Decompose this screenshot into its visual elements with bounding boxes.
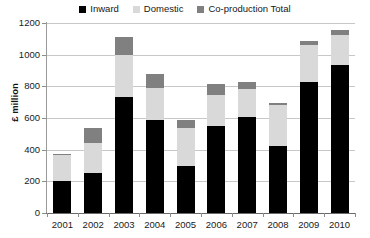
legend-swatch-icon — [79, 6, 86, 13]
y-axis-tick-label: 800 — [2, 81, 40, 91]
bar-segment[interactable] — [207, 126, 225, 213]
bar-segment[interactable] — [269, 103, 287, 105]
bar-segment[interactable] — [269, 105, 287, 146]
x-axis-tick — [263, 213, 264, 217]
x-axis-tick — [293, 213, 294, 217]
x-axis-tick — [324, 213, 325, 217]
bar-segment[interactable] — [84, 128, 102, 143]
x-axis-tick — [78, 213, 79, 217]
bar-segment[interactable] — [53, 181, 71, 213]
x-axis-tick — [201, 213, 202, 217]
y-axis-tick-label: 0 — [2, 208, 40, 218]
bar-segment[interactable] — [300, 45, 318, 82]
bar-segment[interactable] — [115, 55, 133, 97]
legend-item[interactable]: Inward — [79, 4, 119, 14]
bar-segment[interactable] — [300, 41, 318, 45]
bar-segment[interactable] — [238, 82, 256, 89]
chart-legend: InwardDomesticCo-production Total — [0, 1, 370, 17]
bar-segment[interactable] — [207, 84, 225, 95]
y-axis-tick-label: 200 — [2, 176, 40, 186]
legend-item-label: Domestic — [144, 4, 184, 14]
x-axis-tick-label: 2010 — [320, 220, 360, 230]
legend-item[interactable]: Co-production Total — [197, 4, 290, 14]
y-axis-tick-label: 1000 — [2, 50, 40, 60]
bar-segment[interactable] — [177, 120, 195, 127]
x-axis-tick — [139, 213, 140, 217]
bar-group[interactable] — [269, 103, 287, 213]
y-axis-title: £ million — [9, 68, 20, 138]
bar-group[interactable] — [177, 120, 195, 213]
bar-segment[interactable] — [146, 120, 164, 213]
x-axis-tick — [170, 213, 171, 217]
bar-segment[interactable] — [53, 155, 71, 181]
bar-segment[interactable] — [84, 173, 102, 213]
bar-group[interactable] — [238, 82, 256, 213]
plot-area — [47, 23, 355, 213]
bar-group[interactable] — [115, 37, 133, 213]
bar-segment[interactable] — [53, 154, 71, 155]
bar-group[interactable] — [84, 128, 102, 214]
legend-item-label: Inward — [90, 4, 119, 14]
bar-segment[interactable] — [177, 166, 195, 213]
bar-segment[interactable] — [331, 35, 349, 65]
legend-item[interactable]: Domestic — [133, 4, 184, 14]
bar-chart: InwardDomesticCo-production Total £ mill… — [0, 0, 370, 238]
bar-group[interactable] — [146, 74, 164, 213]
y-axis-tick-label: 600 — [2, 113, 40, 123]
bar-segment[interactable] — [115, 37, 133, 55]
y-axis-tick-label: 400 — [2, 145, 40, 155]
gridline — [47, 23, 355, 24]
bar-group[interactable] — [53, 154, 71, 213]
bar-segment[interactable] — [207, 95, 225, 126]
bar-group[interactable] — [300, 41, 318, 213]
y-axis-tick-label: 1200 — [2, 18, 40, 28]
bar-segment[interactable] — [300, 82, 318, 213]
legend-swatch-icon — [133, 6, 140, 13]
bar-group[interactable] — [331, 30, 349, 213]
legend-swatch-icon — [197, 6, 204, 13]
bar-segment[interactable] — [269, 146, 287, 213]
x-axis-tick — [47, 213, 48, 217]
bar-segment[interactable] — [146, 88, 164, 120]
bar-segment[interactable] — [177, 128, 195, 167]
x-axis-tick — [109, 213, 110, 217]
x-axis-tick — [355, 213, 356, 217]
x-axis-tick — [232, 213, 233, 217]
bar-segment[interactable] — [115, 97, 133, 213]
bar-segment[interactable] — [146, 74, 164, 87]
bar-segment[interactable] — [238, 117, 256, 213]
bar-segment[interactable] — [238, 89, 256, 118]
bar-group[interactable] — [207, 84, 225, 213]
bar-segment[interactable] — [331, 30, 349, 35]
bar-segment[interactable] — [84, 143, 102, 173]
legend-item-label: Co-production Total — [208, 4, 290, 14]
bar-segment[interactable] — [331, 65, 349, 213]
